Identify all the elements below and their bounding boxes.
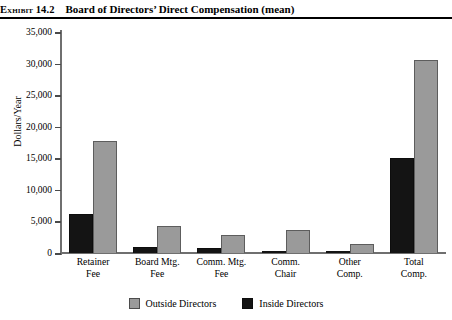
y-axis-tick-labels: 05,00010,00015,00020,00025,00030,00035,0… bbox=[0, 20, 52, 320]
bar-outside bbox=[286, 230, 310, 253]
bar-outside bbox=[221, 235, 245, 253]
bar-outside bbox=[350, 244, 374, 253]
header-rule bbox=[0, 17, 452, 19]
bar-group bbox=[125, 32, 189, 253]
category-label-line: Chair bbox=[254, 268, 318, 280]
bar-inside bbox=[69, 214, 93, 253]
category-label-line: Retainer bbox=[77, 256, 110, 267]
y-axis-tick-label: 10,000 bbox=[6, 185, 52, 195]
bar-inside bbox=[133, 247, 157, 253]
category-label-line: Comm. bbox=[271, 256, 300, 267]
x-axis-category-label: TotalComp. bbox=[382, 256, 446, 279]
y-axis-tick-label: 0 bbox=[6, 249, 52, 259]
x-axis-category-label: Comm. Mtg.Fee bbox=[189, 256, 253, 279]
chart-legend: Outside DirectorsInside Directors bbox=[0, 294, 452, 312]
bar-group bbox=[189, 32, 253, 253]
y-axis-tick bbox=[55, 253, 61, 255]
bar-outside bbox=[157, 226, 181, 253]
category-label-line: Fee bbox=[189, 268, 253, 280]
legend-swatch-outside bbox=[129, 298, 140, 309]
x-axis-category-label: OtherComp. bbox=[318, 256, 382, 279]
bar-group bbox=[254, 32, 318, 253]
bar-outside bbox=[414, 60, 438, 253]
exhibit-title: Board of Directors’ Direct Compensation … bbox=[66, 3, 295, 15]
bar-group bbox=[61, 32, 125, 253]
x-axis-category-label: Comm.Chair bbox=[254, 256, 318, 279]
legend-label: Inside Directors bbox=[259, 298, 323, 309]
category-label-line: Fee bbox=[125, 268, 189, 280]
bar-inside bbox=[197, 248, 221, 253]
x-axis-category-labels: RetainerFeeBoard Mtg.FeeComm. Mtg.FeeCom… bbox=[61, 256, 446, 290]
bar-outside bbox=[93, 141, 117, 253]
legend-label: Outside Directors bbox=[146, 298, 217, 309]
x-axis-category-label: RetainerFee bbox=[61, 256, 125, 279]
category-label-line: Total bbox=[404, 256, 424, 267]
category-label-line: Comm. Mtg. bbox=[197, 256, 247, 267]
category-label-line: Comp. bbox=[382, 268, 446, 280]
bar-groups bbox=[61, 32, 446, 253]
bar-inside bbox=[390, 158, 414, 253]
legend-swatch-inside bbox=[242, 298, 253, 309]
exhibit-figure: Exhibit 14.2 Board of Directors’ Direct … bbox=[0, 0, 452, 320]
bar-group bbox=[318, 32, 382, 253]
exhibit-header: Exhibit 14.2 Board of Directors’ Direct … bbox=[0, 0, 452, 18]
bar-group bbox=[382, 32, 446, 253]
y-axis-tick-label: 35,000 bbox=[6, 28, 52, 38]
legend-item: Inside Directors bbox=[242, 298, 323, 309]
legend-item: Outside Directors bbox=[129, 298, 217, 309]
category-label-line: Board Mtg. bbox=[135, 256, 180, 267]
x-axis-category-label: Board Mtg.Fee bbox=[125, 256, 189, 279]
y-axis-tick-label: 5,000 bbox=[6, 217, 52, 227]
category-label-line: Comp. bbox=[318, 268, 382, 280]
category-label-line: Fee bbox=[61, 268, 125, 280]
exhibit-label: Exhibit 14.2 bbox=[0, 4, 55, 15]
bar-inside bbox=[326, 251, 350, 253]
category-label-line: Other bbox=[339, 256, 361, 267]
bar-inside bbox=[262, 251, 286, 253]
y-axis-title: Dollars/Year bbox=[12, 67, 23, 177]
bar-chart: 05,00010,00015,00020,00025,00030,00035,0… bbox=[0, 20, 452, 320]
